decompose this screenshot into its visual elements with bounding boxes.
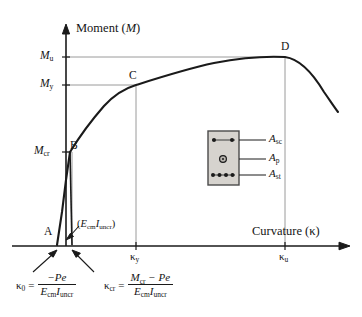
stiffness-e-subscript: cm (87, 223, 96, 231)
kappa0-denominator: EcmIuncr (38, 285, 77, 298)
y-axis-title: Moment (M) (76, 22, 140, 35)
y-axis-arrowhead (62, 24, 69, 34)
kappacr-leader-line (76, 254, 94, 272)
mu-symbol: M (40, 49, 50, 61)
ap-symbol: A (269, 151, 276, 163)
kappacr-leader-head (72, 250, 80, 257)
stiffness-annotation: (EcmIuncr) (77, 219, 115, 230)
x-tick-label-ky: κy (130, 251, 139, 262)
mu-subscript: u (50, 54, 54, 63)
figure-canvas (0, 0, 362, 317)
kappa0-symbol: κ (16, 279, 22, 291)
point-label-d: D (281, 41, 289, 53)
kappacr-subscript: cr (110, 284, 116, 293)
ap-tendon-core (222, 158, 224, 160)
point-label-a: A (44, 226, 52, 238)
kappacr-symbol: κ (104, 279, 110, 291)
kappacr-numerator: Mcr − Pe (128, 271, 174, 285)
my-subscript: y (50, 82, 54, 91)
x-axis-arrowhead (339, 242, 350, 250)
ast-bar (218, 173, 222, 177)
x-tick-label-ku: κu (279, 251, 288, 262)
moment-curvature-figure: Moment (M) Curvature (κ) Mu My Mcr κy κu… (0, 0, 362, 317)
point-label-c: C (129, 70, 137, 82)
y-tick-label-mu: Mu (40, 50, 54, 62)
axes (12, 24, 350, 250)
ast-bar (211, 173, 215, 177)
my-symbol: M (40, 77, 50, 89)
stiffness-i-subscript: uncr (99, 223, 112, 231)
kappa0-subscript: 0 (22, 284, 26, 293)
y-tick-label-my: My (40, 78, 54, 90)
kappa0-leader-head (49, 250, 58, 257)
stiffness-e-symbol: E (81, 218, 87, 229)
kappacr-denominator: EcmIuncr (128, 285, 174, 298)
kappacr-equals: = (115, 280, 127, 291)
y-axis-title-symbol: M (126, 21, 136, 35)
mcr-symbol: M (34, 144, 44, 156)
kappa0-leader-line (33, 254, 53, 272)
ky-symbol: κ (130, 250, 136, 262)
point-label-b: B (70, 140, 78, 152)
kappa0-fraction: −PeEcmIuncr (38, 271, 77, 298)
kappacr-leader-arrow (72, 250, 94, 272)
asc-symbol: A (269, 132, 276, 144)
y-axis-title-text: Moment (76, 21, 118, 35)
y-tick-label-mcr: Mcr (34, 145, 50, 157)
kappacr-fraction: Mcr − PeEcmIuncr (128, 271, 174, 298)
ast-symbol: A (269, 167, 276, 179)
inset-label-ap: Ap (269, 152, 279, 163)
kappa0-equals: = (25, 280, 37, 291)
cross-section-inset (208, 131, 266, 185)
asc-bar (212, 138, 216, 142)
kappa0-numerator: −Pe (38, 271, 77, 285)
kappacr-formula: κcr=Mcr − PeEcmIuncr (104, 272, 173, 299)
asc-bar (230, 138, 234, 142)
mcr-subscript: cr (44, 149, 50, 158)
ast-subscript: st (276, 172, 281, 181)
x-axis-title: Curvature (κ) (252, 225, 320, 238)
ast-bar (224, 173, 228, 177)
ky-subscript: y (136, 255, 140, 264)
ast-bar (231, 173, 235, 177)
ku-symbol: κ (279, 250, 285, 262)
ap-subscript: p (276, 156, 280, 165)
x-axis-title-text: Curvature (252, 224, 302, 238)
inset-label-asc: Asc (269, 133, 282, 144)
kappa0-formula: κ0=−PeEcmIuncr (16, 272, 76, 299)
ku-subscript: u (285, 255, 289, 264)
inset-label-ast: Ast (269, 168, 281, 179)
asc-subscript: sc (276, 137, 282, 146)
kappa0-leader-arrow (33, 250, 57, 272)
